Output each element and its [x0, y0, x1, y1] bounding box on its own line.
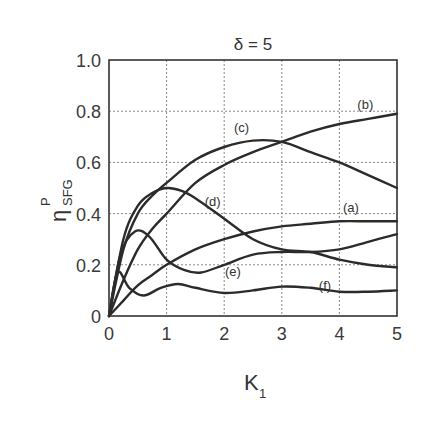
chart: (a)(b)(c)(d)(e)(f) 012345 00.20.40.60.81…	[0, 0, 422, 431]
curve-f	[109, 272, 397, 316]
x-tick-labels: 012345	[104, 324, 402, 344]
curve-labels: (a)(b)(c)(d)(e)(f)	[205, 97, 374, 294]
x-tick-label: 4	[334, 324, 344, 344]
x-tick-label: 5	[392, 324, 402, 344]
y-tick-labels: 00.20.40.60.81.0	[76, 51, 101, 327]
grid-lines	[109, 60, 397, 316]
y-axis-label-main: η	[46, 210, 71, 222]
y-tick-label: 0.2	[76, 256, 101, 276]
plot-frame	[109, 60, 397, 316]
y-tick-label: 0.8	[76, 102, 101, 122]
curve-a	[109, 221, 397, 316]
curve-label-c: (c)	[234, 120, 249, 135]
x-axis-label-subscript: 1	[259, 386, 266, 401]
curve-label-d: (d)	[205, 194, 221, 209]
x-axis-label: K 1	[244, 370, 266, 401]
x-axis-label-main: K	[244, 370, 259, 395]
chart-title: δ = 5	[234, 35, 272, 54]
y-tick-label: 0.4	[76, 205, 101, 225]
y-tick-label: 1.0	[76, 51, 101, 71]
x-tick-label: 3	[277, 324, 287, 344]
curve-label-f: (f)	[319, 278, 331, 293]
curve-e	[109, 230, 397, 316]
y-axis-label-superscript: P	[38, 197, 53, 206]
curve-label-e: (e)	[225, 264, 241, 279]
y-tick-label: 0	[91, 307, 101, 327]
y-axis-label: η P SFG	[38, 179, 75, 222]
x-tick-label: 1	[162, 324, 172, 344]
curve-label-a: (a)	[343, 200, 359, 215]
y-axis-label-subscript: SFG	[60, 179, 75, 206]
y-tick-label: 0.6	[76, 153, 101, 173]
curve-label-b: (b)	[357, 97, 373, 112]
x-tick-label: 2	[219, 324, 229, 344]
x-tick-label: 0	[104, 324, 114, 344]
